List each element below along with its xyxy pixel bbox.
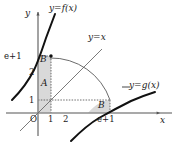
y-tick-e-plus-1: e+1	[4, 52, 22, 61]
y-axis-label: y	[25, 9, 30, 18]
x-tick-e-plus-1: e+1	[97, 115, 115, 124]
y-tick-2: 2	[29, 68, 34, 77]
x-axis-label: x	[160, 116, 165, 125]
symmetry-arc	[50, 58, 110, 100]
graph-canvas	[0, 0, 178, 143]
origin-label: O	[30, 115, 37, 124]
math-figure: y x O 1 2 e+1 1 2 e+1 y=f(x) y=x y=g(x) …	[0, 0, 178, 143]
g-curve-label: y=g(x)	[129, 81, 160, 90]
x-tick-1: 1	[48, 115, 53, 124]
point-b-upper	[49, 54, 52, 57]
identity-line-label: y=x	[88, 33, 106, 42]
region-b-upper-label: B	[40, 55, 47, 64]
y-axis-arrow-icon	[36, 12, 39, 15]
x-tick-2: 2	[63, 115, 68, 124]
region-b-lower-label: B	[98, 101, 105, 110]
region-a-label: A	[41, 79, 48, 88]
f-curve-label: y=f(x)	[49, 4, 77, 13]
y-tick-1: 1	[29, 96, 34, 105]
